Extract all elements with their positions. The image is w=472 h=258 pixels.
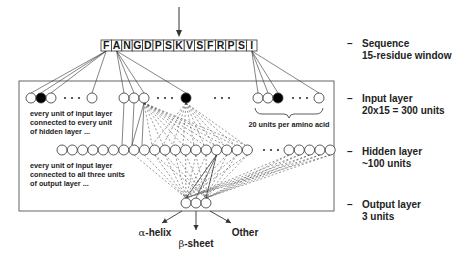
hidden-output-connection-dashed	[206, 155, 299, 198]
input-hidden-connection-dashed	[186, 103, 204, 145]
hidden-unit	[201, 145, 211, 155]
input-unit	[46, 93, 56, 103]
sequence-input-connection	[31, 51, 106, 93]
hidden-unit	[294, 145, 304, 155]
neural-network-diagram: FANGDPSKVSFRPSI α-helixβ-sheetOther ever…	[0, 0, 472, 258]
hidden-output-connection-dashed	[134, 155, 186, 198]
residue-cell: D	[143, 39, 153, 51]
label-dash: –	[347, 199, 353, 210]
input-unit	[129, 93, 139, 103]
sequence-window: FANGDPSKVSFRPSI	[101, 7, 257, 51]
label-subtitle: 3 units	[362, 211, 395, 222]
input-hidden-connection-dashed	[144, 103, 204, 145]
note-input-hidden-line: connected to every unit	[30, 118, 112, 127]
label-dash: –	[347, 146, 353, 157]
hidden-output-connection-dashed	[165, 155, 206, 198]
output-unit	[201, 198, 211, 208]
residue-letter: P	[227, 39, 234, 51]
arrow-down-icon-head	[176, 30, 182, 37]
hidden-unit	[242, 145, 252, 155]
input-unit	[253, 93, 263, 103]
sequence-input-connection	[117, 51, 144, 93]
residue-cell: N	[122, 39, 132, 51]
ellipsis-dot	[64, 97, 66, 99]
hidden-unit	[57, 145, 67, 155]
note-input-hidden-line: of hidden layer ...	[30, 127, 90, 136]
sequence-input-connection	[252, 51, 268, 93]
residue-cell: F	[205, 39, 215, 51]
input-unit	[139, 93, 149, 103]
output-label-alpha-helix: α-helix	[139, 227, 172, 238]
hidden-output-connection-dashed	[144, 155, 186, 198]
hidden-output-connection-dashed	[206, 155, 237, 198]
sequence-input-connection	[117, 51, 134, 93]
residue-letter: S	[196, 39, 203, 51]
hidden-output-connection	[206, 155, 217, 198]
output-label-other: Other	[232, 227, 259, 238]
hidden-unit	[191, 145, 201, 155]
input-unit	[119, 93, 129, 103]
input-unit	[87, 93, 97, 103]
sequence-input-connection	[92, 51, 106, 93]
hidden-layer	[57, 145, 335, 155]
residue-letter: D	[144, 39, 152, 51]
residue-cell: R	[215, 39, 225, 51]
ellipsis-dot	[71, 97, 73, 99]
sequence-input-connection	[117, 51, 124, 93]
output-label-beta-sheet: β-sheet	[178, 238, 214, 249]
input-hidden-connection-dashed	[163, 103, 186, 145]
hidden-output-connection-dashed	[206, 155, 320, 198]
hidden-unit	[88, 145, 98, 155]
residue-cell: S	[163, 39, 173, 51]
hidden-unit	[129, 145, 139, 155]
sequence-input-connection	[51, 51, 106, 93]
note-hidden-output-line: every unit of input layer	[30, 161, 112, 170]
layer-label: –Output layer3 units	[347, 199, 421, 222]
hidden-output-connection-dashed	[206, 155, 310, 198]
label-dash: –	[347, 93, 353, 104]
input-hidden-connection-dashed	[186, 103, 194, 145]
hidden-unit	[160, 145, 170, 155]
hidden-unit	[150, 145, 160, 155]
ellipsis-dot	[306, 97, 308, 99]
label-title: Input layer	[362, 93, 413, 104]
input-unit-active	[181, 93, 191, 103]
input-hidden-connection-dashed	[144, 103, 163, 145]
hidden-unit	[284, 145, 294, 155]
hidden-output-connection-dashed	[186, 155, 299, 198]
ellipsis-dot	[221, 97, 223, 99]
input-hidden-connection-dashed	[144, 103, 152, 145]
output-label-text: -helix	[145, 227, 172, 238]
note-amino-acid-brace: 20 units per amino acid	[248, 120, 329, 129]
ellipsis-dot	[214, 97, 216, 99]
input-hidden-connection-dashed	[186, 103, 235, 145]
hidden-unit	[67, 145, 77, 155]
ellipsis-dot	[277, 149, 279, 151]
brace-icon	[255, 108, 323, 118]
residue-letter: S	[165, 39, 172, 51]
residue-cell: S	[236, 39, 246, 51]
input-hidden-connection-dashed	[144, 103, 194, 145]
ellipsis-dot	[157, 97, 159, 99]
hidden-unit	[98, 145, 108, 155]
hidden-unit	[181, 145, 191, 155]
residue-cell: G	[132, 39, 142, 51]
input-hidden-connection-dashed	[183, 103, 186, 145]
output-unit	[181, 198, 191, 208]
input-hidden-connection-dashed	[186, 103, 245, 145]
sequence-input-connection	[252, 51, 278, 93]
residue-letter: F	[103, 39, 110, 51]
residue-cell: P	[226, 39, 236, 51]
note-input-hidden-line: every unit of input layer	[30, 109, 112, 118]
input-unit	[26, 93, 36, 103]
residue-letter: N	[123, 39, 131, 51]
hidden-unit	[315, 145, 325, 155]
label-dash: –	[347, 38, 353, 49]
residue-letter: G	[133, 39, 141, 51]
ellipsis-dot	[263, 149, 265, 151]
residue-letter: I	[250, 39, 253, 51]
note-hidden-output-line: connected to all three units	[30, 170, 125, 179]
sequence-input-connection	[252, 51, 258, 93]
hidden-output-connection-dashed	[165, 155, 186, 198]
residue-letter: K	[175, 39, 183, 51]
